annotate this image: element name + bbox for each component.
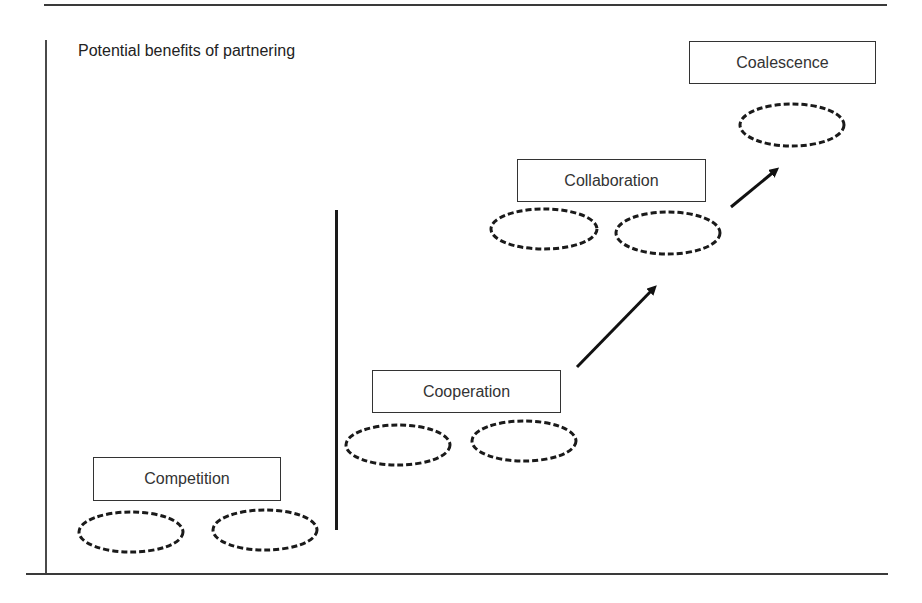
- arrow-collaboration-to-coalescence-icon: [731, 170, 776, 207]
- collaboration-benefit-ellipse-2: [616, 212, 720, 254]
- cooperation-benefit-ellipse-2: [472, 421, 576, 461]
- collaboration-benefit-ellipse-1: [491, 209, 597, 249]
- competition-benefit-ellipse-1: [79, 512, 183, 552]
- competition-benefit-ellipse-2: [213, 510, 317, 550]
- diagram-graphics: [0, 0, 922, 603]
- cooperation-benefit-ellipse-1: [346, 425, 450, 465]
- coalescence-benefit-ellipse: [740, 104, 844, 146]
- arrow-cooperation-to-collaboration-icon: [577, 288, 654, 367]
